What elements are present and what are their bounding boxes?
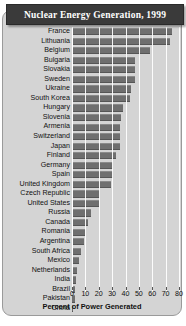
category-label: France [5,27,72,37]
x-tick-label: 0 [70,290,74,298]
bar [72,190,100,197]
bar-row: Switzerland [5,132,179,142]
bar-track [72,103,179,113]
category-label: Bulgaria [5,56,72,66]
chart-title: Nuclear Energy Generation, 1999 [24,10,166,20]
category-label: Finland [5,151,72,161]
bar [72,124,120,131]
bar-track [72,113,179,123]
bar-track [72,132,179,142]
bar-row: Slovakia [5,65,179,75]
category-label: United Kingdom [5,180,72,190]
bar-track [72,227,179,237]
bar [72,95,130,102]
category-label: Lithuania [5,37,72,47]
bar [72,76,135,83]
bar-row: Armenia [5,122,179,132]
bar-row: Lithuania [5,37,179,47]
bar-track [72,208,179,218]
bar [72,114,121,121]
category-label: Hungary [5,103,72,113]
bar-row: Sweden [5,75,179,85]
category-label: South Korea [5,94,72,104]
bar-row: Hungary [5,103,179,113]
bar [72,38,170,45]
bar-row: Slovenia [5,113,179,123]
x-tick-label: 40 [122,290,130,298]
bar-plot-area: FranceLithuaniaBelgiumBulgariaSlovakiaSw… [5,27,179,292]
bar [72,85,131,92]
x-axis-title: Percent of Power Generated [5,302,179,311]
bar-track [72,237,179,247]
bar-track [72,142,179,152]
category-label: Slovenia [5,113,72,123]
bar-row: Czech Republic [5,189,179,199]
bar-track [72,266,179,276]
bar [72,133,120,140]
bar [72,257,79,264]
bar-row: Ukraine [5,84,179,94]
bar-row: India [5,275,179,285]
category-label: Czech Republic [5,189,72,199]
category-label: Ukraine [5,84,72,94]
bar [72,171,113,178]
x-tick-label: 50 [135,290,143,298]
bar [72,143,120,150]
bar [72,66,135,73]
category-label: Romania [5,227,72,237]
bar [72,152,116,159]
bar-track [72,218,179,228]
bar-row: Netherlands [5,266,179,276]
bar-row: France [5,27,179,37]
bar [72,47,150,54]
bar-row: Mexico [5,256,179,266]
bar-row: Japan [5,142,179,152]
bar-row: Russia [5,208,179,218]
bar [72,181,111,188]
bar-track [72,247,179,257]
category-label: Spain [5,170,72,180]
bar [72,200,99,207]
bar-track [72,65,179,75]
x-axis: 01020304050607080 [5,287,179,301]
bar [72,238,84,245]
category-label: Belgium [5,46,72,56]
x-tick-label: 70 [162,290,170,298]
bar-track [72,75,179,85]
bar [72,267,77,274]
category-label: Mexico [5,256,72,266]
bar [72,248,81,255]
bar-track [72,189,179,199]
bar-track [72,94,179,104]
x-tick-label: 60 [148,290,156,298]
bar-track [72,84,179,94]
bar-track [72,122,179,132]
bar-track [72,199,179,209]
bar [72,276,76,283]
bar-track [72,46,179,56]
category-label: Germany [5,161,72,171]
chart-title-bar: Nuclear Energy Generation, 1999 [6,4,184,25]
bar-track [72,180,179,190]
bar-row: South Africa [5,247,179,257]
bar-row: Romania [5,227,179,237]
bar [72,57,135,64]
bar-track [72,275,179,285]
category-label: Argentina [5,237,72,247]
bar [72,162,113,169]
x-tick-label: 10 [81,290,89,298]
category-label: Japan [5,142,72,152]
category-label: Netherlands [5,266,72,276]
bar-row: Spain [5,170,179,180]
category-label: Canada [5,218,72,228]
category-label: Switzerland [5,132,72,142]
bar-row: Argentina [5,237,179,247]
bar-row: Bulgaria [5,56,179,66]
category-label: Sweden [5,75,72,85]
bar-track [72,151,179,161]
category-label: India [5,275,72,285]
category-label: South Africa [5,247,72,257]
category-label: United States [5,199,72,209]
category-label: Slovakia [5,65,72,75]
x-tick-label: 20 [95,290,103,298]
